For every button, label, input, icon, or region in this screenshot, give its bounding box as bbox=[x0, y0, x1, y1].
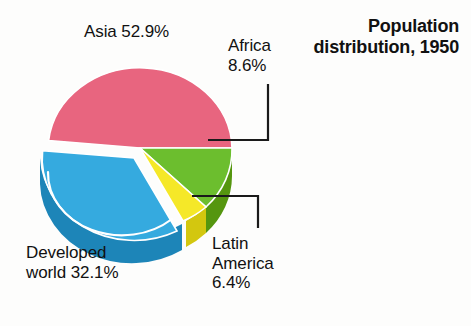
pie-slice-asia[interactable] bbox=[49, 68, 232, 148]
pie-label-africa: Africa 8.6% bbox=[228, 36, 271, 75]
pie-label-latin-america: Latin America 6.4% bbox=[212, 234, 274, 293]
chart-title: Population distribution, 1950 bbox=[299, 16, 459, 58]
pie-label-asia: Asia 52.9% bbox=[84, 22, 169, 42]
pie-chart-figure: Population distribution, 1950 Asia 52.9%… bbox=[0, 0, 471, 326]
pie-label-developed-world: Developed world 32.1% bbox=[26, 243, 118, 282]
